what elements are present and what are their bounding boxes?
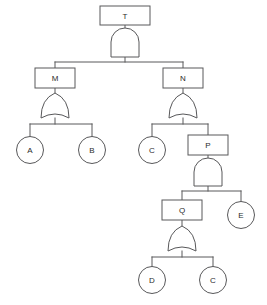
node-p[interactable]: P bbox=[188, 135, 228, 155]
gate-and-p bbox=[194, 158, 222, 186]
node-d-label: D bbox=[149, 276, 155, 285]
node-a[interactable]: A bbox=[17, 137, 44, 164]
node-q-label: Q bbox=[179, 206, 185, 215]
node-m-label: M bbox=[52, 74, 59, 83]
node-c-1[interactable]: C bbox=[139, 137, 166, 164]
gate-or-q bbox=[168, 226, 196, 251]
node-t[interactable]: T bbox=[100, 6, 150, 25]
node-p-label: P bbox=[205, 141, 210, 150]
node-e-label: E bbox=[238, 211, 243, 220]
gate-and-t bbox=[111, 28, 139, 57]
node-b[interactable]: B bbox=[79, 137, 106, 164]
node-n[interactable]: N bbox=[163, 68, 203, 88]
node-c-1-label: C bbox=[149, 146, 155, 155]
node-q[interactable]: Q bbox=[162, 200, 202, 220]
node-t-label: T bbox=[123, 12, 128, 21]
fault-tree-canvas: T M N A B C P bbox=[0, 0, 267, 305]
node-m[interactable]: M bbox=[35, 68, 75, 88]
node-c-2[interactable]: C bbox=[200, 267, 227, 294]
fault-tree-diagram: T M N A B C P bbox=[0, 0, 267, 305]
node-d[interactable]: D bbox=[139, 267, 166, 294]
node-b-label: B bbox=[89, 146, 94, 155]
node-e[interactable]: E bbox=[228, 202, 255, 229]
gate-or-m bbox=[41, 93, 69, 118]
node-a-label: A bbox=[27, 146, 33, 155]
node-c-2-label: C bbox=[210, 276, 216, 285]
gate-or-n bbox=[169, 93, 197, 118]
node-n-label: N bbox=[180, 74, 186, 83]
